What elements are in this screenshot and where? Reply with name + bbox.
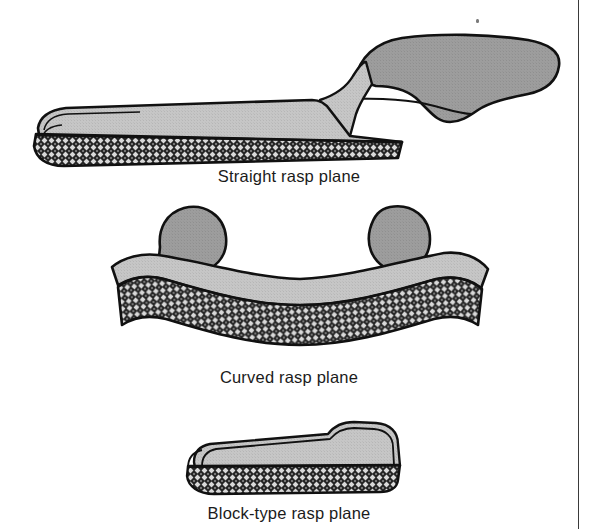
sole-rasp-face	[187, 465, 400, 494]
caption-block-type-rasp-plane: Block-type rasp plane	[0, 504, 578, 523]
caption-curved-rasp-plane: Curved rasp plane	[0, 368, 578, 387]
figure-curved-rasp-plane	[100, 195, 500, 360]
offset-handle	[356, 35, 559, 122]
figure-block-type-rasp-plane	[180, 418, 420, 498]
stray-ink-speck	[476, 19, 479, 23]
illustration-page: Straight rasp plane Curved rasp plane Bl…	[0, 0, 600, 529]
caption-straight-rasp-plane: Straight rasp plane	[0, 167, 578, 186]
page-divider-rule	[578, 0, 579, 529]
figure-straight-rasp-plane	[20, 18, 580, 168]
